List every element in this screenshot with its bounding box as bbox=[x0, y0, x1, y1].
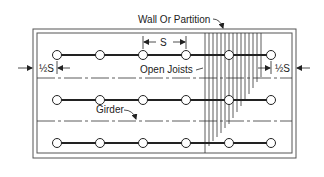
wall-partition-leader bbox=[213, 19, 223, 28]
wall-partition-lines bbox=[205, 33, 261, 153]
girder-leader bbox=[124, 110, 136, 119]
right-half-spacing-label: ½S bbox=[275, 63, 290, 74]
left-half-spacing-label: ½S bbox=[39, 63, 54, 74]
girder-label: Girder bbox=[96, 104, 124, 115]
open-joists-label: Open Joists bbox=[140, 64, 193, 75]
joist-layout-diagram: S ½S ½S Wall Or Partition Open Joists Gi… bbox=[0, 0, 324, 177]
open-joists-leader bbox=[196, 68, 203, 70]
outer-frame bbox=[33, 29, 296, 158]
wall-partition-label: Wall Or Partition bbox=[138, 14, 210, 25]
spacing-label: S bbox=[160, 37, 167, 48]
